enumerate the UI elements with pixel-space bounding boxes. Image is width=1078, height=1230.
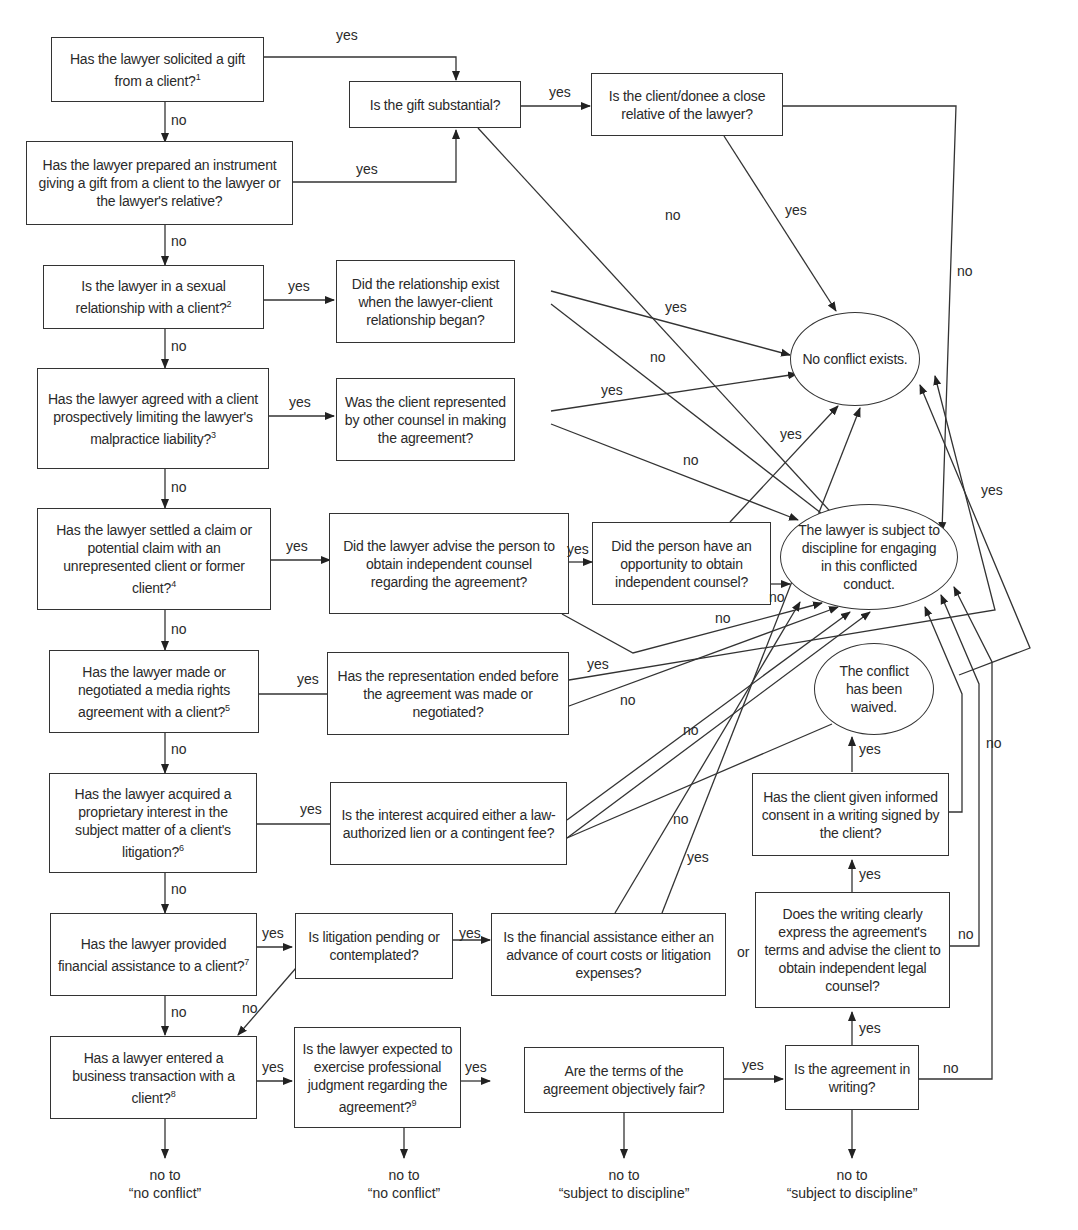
terminal-line: no to <box>787 1166 918 1184</box>
node-terms-fair: Are the terms of the agreement objective… <box>524 1047 724 1113</box>
edge-label-yes: yes <box>262 1059 284 1075</box>
edge-label-yes: yes <box>780 426 802 442</box>
node-text: Is the lawyer in a sexual relationship w… <box>76 278 227 316</box>
node-gift-substantial: Is the gift substantial? <box>349 81 521 128</box>
edge-label-yes: yes <box>859 1020 881 1036</box>
node-q9-business-transaction: Has a lawyer entered a business transact… <box>50 1036 257 1119</box>
node-text: Has the lawyer prepared an instrument gi… <box>33 156 286 210</box>
terminal-line: no to <box>559 1166 690 1184</box>
node-q5-settled-claim: Has the lawyer settled a claim or potent… <box>37 508 271 610</box>
node-text: Are the terms of the agreement objective… <box>531 1062 717 1098</box>
node-text: Is litigation pending or contemplated? <box>302 928 446 964</box>
node-client-represented: Was the client represented by other coun… <box>336 378 515 461</box>
edge-label-no: no <box>171 233 187 249</box>
outcome-no-conflict: No conflict exists. <box>790 312 920 406</box>
edge-label-yes: yes <box>587 656 609 672</box>
edge-label-no: no <box>171 1004 187 1020</box>
edge-label-no: no <box>620 692 636 708</box>
node-q6-media-rights: Has the lawyer made or negotiated a medi… <box>49 650 259 733</box>
edge-label-yes: yes <box>262 925 284 941</box>
node-lien-or-contingent-fee: Is the interest acquired either a law-au… <box>330 782 567 865</box>
edge-label-yes: yes <box>356 161 378 177</box>
terminal-no-to-subject-to-discipline: no to “subject to discipline” <box>559 1166 690 1202</box>
edge-label-yes: yes <box>289 394 311 410</box>
node-litigation-pending: Is litigation pending or contemplated? <box>295 913 453 979</box>
node-text: Is the gift substantial? <box>370 96 501 114</box>
node-court-costs-advance: Is the financial assistance either an ad… <box>491 913 726 996</box>
edge-label-no: no <box>673 811 689 827</box>
edge-label-yes: yes <box>859 741 881 757</box>
terminal-line: no to <box>129 1166 201 1184</box>
node-opportunity-counsel: Did the person have an opportunity to ob… <box>592 522 771 605</box>
node-text: No conflict exists. <box>802 350 907 368</box>
edge-label-no: no <box>943 1060 959 1076</box>
edge-label-no: no <box>769 589 785 605</box>
node-close-relative: Is the client/donee a close relative of … <box>591 73 783 136</box>
footnote-ref: 7 <box>244 957 249 967</box>
edge-label-yes: yes <box>336 27 358 43</box>
edge-label-no: no <box>683 452 699 468</box>
footnote-ref: 8 <box>171 1089 176 1099</box>
edge-label-no: no <box>171 338 187 354</box>
terminal-line: no to <box>368 1166 440 1184</box>
edge-label-yes: yes <box>785 202 807 218</box>
terminal-line: “no conflict” <box>129 1184 201 1202</box>
node-text: Has the client given informed consent in… <box>759 788 942 842</box>
edge-label-no: no <box>683 722 699 738</box>
edge-label-no: no <box>242 1000 258 1016</box>
node-q1-solicited-gift: Has the lawyer solicited a gift from a c… <box>51 37 264 102</box>
footnote-ref: 2 <box>227 299 232 309</box>
edge-label-no: no <box>715 610 731 626</box>
node-text: Has the lawyer acquired a proprietary in… <box>75 786 232 860</box>
node-text: Has the lawyer solicited a gift from a c… <box>70 51 245 89</box>
node-text: The lawyer is subject to discipline for … <box>795 521 943 593</box>
terminal-line: “subject to discipline” <box>787 1184 918 1202</box>
edge-label-no: no <box>171 479 187 495</box>
outcome-subject-to-discipline: The lawyer is subject to discipline for … <box>780 504 958 610</box>
footnote-ref: 1 <box>196 72 201 82</box>
node-representation-ended: Has the representation ended before the … <box>327 652 569 735</box>
node-writing-clear: Does the writing clearly express the agr… <box>755 892 950 1008</box>
node-professional-judgment: Is the lawyer expected to exercise profe… <box>294 1027 461 1128</box>
edge-label-yes: yes <box>742 1057 764 1073</box>
footnote-ref: 6 <box>179 843 184 853</box>
node-text: Has the lawyer provided financial assist… <box>58 936 244 974</box>
node-q4-limiting-liability: Has the lawyer agreed with a client pros… <box>37 368 269 469</box>
node-q8-financial-assistance: Has the lawyer provided financial assist… <box>50 913 257 996</box>
node-q3-sexual-relationship: Is the lawyer in a sexual relationship w… <box>43 265 264 329</box>
footnote-ref: 3 <box>211 430 216 440</box>
edge-label-yes: yes <box>549 84 571 100</box>
edge-label-yes: yes <box>859 866 881 882</box>
node-text: Has the lawyer agreed with a client pros… <box>48 391 258 447</box>
node-text: Is the lawyer expected to exercise profe… <box>303 1041 453 1115</box>
edge-label-yes: yes <box>665 299 687 315</box>
edge-label-no: no <box>171 741 187 757</box>
edge-label-yes: yes <box>567 541 589 557</box>
edge-label-yes: yes <box>687 849 709 865</box>
edge-label-yes: yes <box>288 278 310 294</box>
footnote-ref: 5 <box>225 703 230 713</box>
node-text: The conflict has been waived. <box>829 662 919 716</box>
edge-label-no: no <box>986 735 1002 751</box>
edge-label-yes: yes <box>981 482 1003 498</box>
edge-label-yes: yes <box>297 671 319 687</box>
node-q2-prepared-instrument: Has the lawyer prepared an instrument gi… <box>26 141 293 225</box>
node-text: Did the relationship exist when the lawy… <box>343 275 508 329</box>
node-text: Has a lawyer entered a business transact… <box>72 1050 235 1106</box>
node-text: Is the client/donee a close relative of … <box>598 87 776 123</box>
node-informed-consent: Has the client given informed consent in… <box>752 773 949 856</box>
footnote-ref: 4 <box>171 579 176 589</box>
edge-label-no: no <box>958 926 974 942</box>
edge-label-yes: yes <box>286 538 308 554</box>
terminal-line: “no conflict” <box>368 1184 440 1202</box>
terminal-no-to-no-conflict: no to “no conflict” <box>368 1166 440 1202</box>
edge-label-yes: yes <box>601 382 623 398</box>
node-text: Has the lawyer made or negotiated a medi… <box>78 664 230 720</box>
terminal-no-to-subject-to-discipline: no to “subject to discipline” <box>787 1166 918 1202</box>
node-text: Did the person have an opportunity to ob… <box>599 537 764 591</box>
edge-label-no: no <box>171 112 187 128</box>
edge-label-yes: yes <box>459 925 481 941</box>
edge-label-no: no <box>957 263 973 279</box>
edge-label-yes: yes <box>300 801 322 817</box>
terminal-line: “subject to discipline” <box>559 1184 690 1202</box>
